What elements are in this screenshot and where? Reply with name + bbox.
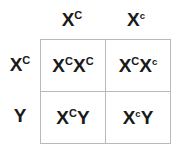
allele-label: XC [62,9,83,30]
allele-label: XC [10,55,31,74]
punnett-square-diagram: XC Xc XC Y XCXC XCXc XCY Xc [0,0,177,151]
punnett-cell-0-1: XCXc [106,40,171,92]
row-header-1: Y [2,90,38,141]
genotype-label: XCY [56,107,89,128]
table-row: XCXC XCXc [41,40,171,92]
punnett-grid: XCXC XCXc XCY XcY [40,39,171,144]
genotype-label: XcY [123,107,154,128]
allele-label: Xc [127,9,145,30]
table-row: XCY XcY [41,92,171,144]
column-header-1: Xc [104,10,168,30]
column-header-0: XC [40,10,104,30]
row-header-0: XC [2,39,38,90]
punnett-cell-1-0: XCY [41,92,106,144]
punnett-cell-0-0: XCXC [41,40,106,92]
punnett-cell-1-1: XcY [106,92,171,144]
genotype-label: XCXC [52,55,93,76]
allele-label: Y [14,106,27,125]
genotype-label: XCXc [119,55,158,76]
